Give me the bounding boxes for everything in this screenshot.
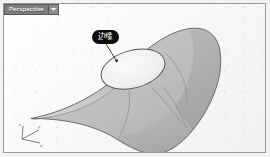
axis-gizmo: z y x <box>18 121 50 149</box>
axis-label-z: z <box>18 122 21 127</box>
app-root: Perspective 边缘 z y x <box>0 0 270 157</box>
perspective-viewport[interactable]: Perspective 边缘 z y x <box>3 3 266 153</box>
callout-leader-line <box>103 40 116 61</box>
viewport-tab[interactable]: Perspective <box>4 4 59 15</box>
chevron-down-icon[interactable] <box>48 5 58 14</box>
callout-leader-endpoint <box>115 59 118 62</box>
axis-label-x: x <box>39 143 43 148</box>
axis-label-y: y <box>37 124 41 129</box>
nurbs-surface <box>31 28 221 152</box>
viewport-tab-label: Perspective <box>5 5 48 14</box>
